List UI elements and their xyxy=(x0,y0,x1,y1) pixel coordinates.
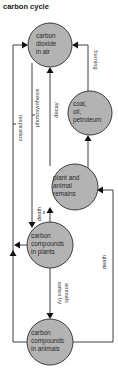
edge-death-plants: death xyxy=(36,207,54,222)
arrow-head-icon xyxy=(47,313,54,319)
diagram-title: carbon cycle xyxy=(3,2,49,11)
svg-text:carbon: carbon xyxy=(36,32,56,39)
node-coal-oil-petroleum: coal, oil, petroleum xyxy=(68,91,112,135)
svg-text:dioxide: dioxide xyxy=(36,40,57,47)
arrow-head-icon xyxy=(29,222,36,228)
svg-text:carbon: carbon xyxy=(31,329,51,336)
edge-respiration: respiration xyxy=(10,42,29,343)
edge-remains-to-fossil xyxy=(85,135,92,170)
edge-label-eaten-by: eaten by xyxy=(57,282,63,304)
edge-eaten-by-animals: eaten by animals xyxy=(47,268,71,319)
arrow-head-icon xyxy=(72,42,78,49)
svg-text:plant and: plant and xyxy=(53,174,80,182)
edge-label-burning: burning xyxy=(93,50,99,69)
svg-text:in plants: in plants xyxy=(31,248,55,256)
svg-text:animal: animal xyxy=(53,182,72,189)
edge-label-death-animals: death xyxy=(101,255,107,270)
arrow-head-icon xyxy=(10,250,17,256)
edge-burning: burning xyxy=(72,42,99,92)
arrow-head-icon xyxy=(14,242,20,249)
svg-text:oil,: oil, xyxy=(73,108,81,115)
arrow-head-icon xyxy=(22,42,28,49)
edge-decay: decay xyxy=(47,67,60,166)
edge-photosynthesis: photosynthesis xyxy=(29,63,41,228)
node-plant-and-animal-remains: plant and animal remains xyxy=(52,164,98,210)
svg-text:compounds: compounds xyxy=(31,337,64,345)
arrow-head-icon xyxy=(85,135,92,141)
svg-text:remains: remains xyxy=(53,190,76,197)
node-carbon-dioxide-in-air: carbon dioxide in air xyxy=(28,23,72,67)
svg-text:compounds: compounds xyxy=(31,240,64,248)
svg-text:in animals: in animals xyxy=(31,345,60,352)
edge-label-death-plants: death xyxy=(36,207,42,222)
node-carbon-compounds-in-plants: carbon compounds in plants xyxy=(27,222,73,268)
edge-label-animals: animals xyxy=(64,283,70,303)
edge-label-photosynthesis: photosynthesis xyxy=(34,89,40,128)
arrow-head-icon xyxy=(47,67,54,73)
svg-text:coal,: coal, xyxy=(73,100,87,107)
edge-label-decay: decay xyxy=(53,102,59,118)
svg-text:in air: in air xyxy=(36,48,51,55)
edge-label-respiration: respiration xyxy=(18,114,24,141)
arrow-head-icon xyxy=(47,207,54,213)
node-carbon-compounds-in-animals: carbon compounds in animals xyxy=(27,319,73,365)
svg-text:petroleum: petroleum xyxy=(73,116,101,124)
carbon-cycle-diagram: carbon cycle respiration photosynthesis … xyxy=(0,0,118,368)
svg-text:carbon: carbon xyxy=(31,232,51,239)
